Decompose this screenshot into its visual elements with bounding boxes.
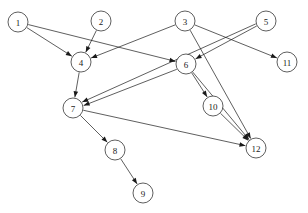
arrowhead-icon-7-to-12 — [239, 142, 245, 146]
graph-canvas: 123546117108129 — [0, 0, 308, 213]
arrowhead-icon-4-to-7 — [74, 91, 79, 97]
node-label-10: 10 — [209, 102, 219, 112]
graph-node-3[interactable]: 3 — [175, 11, 195, 31]
arrowhead-icon-6-to-10 — [202, 91, 207, 97]
node-label-1: 1 — [16, 18, 21, 28]
node-label-12: 12 — [252, 144, 261, 154]
node-label-5: 5 — [264, 17, 269, 27]
arrowhead-icon-5-to-6 — [196, 54, 202, 59]
graph-node-4[interactable]: 4 — [71, 52, 91, 72]
arrowhead-icon-3-to-11 — [271, 54, 277, 58]
node-label-7: 7 — [71, 104, 76, 114]
graph-node-6[interactable]: 6 — [176, 54, 196, 74]
arrowhead-icon-1-to-4 — [66, 51, 72, 56]
node-label-8: 8 — [113, 146, 118, 156]
arrowhead-icon-5-to-7 — [82, 98, 88, 103]
graph-node-10[interactable]: 10 — [203, 96, 223, 116]
node-label-2: 2 — [99, 17, 104, 27]
edge-5-to-6 — [196, 26, 257, 59]
graph-node-9[interactable]: 9 — [133, 183, 153, 203]
graph-node-2[interactable]: 2 — [91, 11, 111, 31]
node-layer: 123546117108129 — [8, 11, 297, 203]
edge-7-to-12 — [83, 110, 245, 145]
node-label-4: 4 — [79, 58, 84, 68]
graph-node-5[interactable]: 5 — [256, 11, 276, 31]
node-label-9: 9 — [141, 189, 146, 199]
node-label-6: 6 — [184, 60, 189, 70]
node-label-3: 3 — [183, 17, 188, 27]
arrowhead-icon-2-to-4 — [86, 46, 91, 52]
graph-node-7[interactable]: 7 — [63, 98, 83, 118]
graph-node-8[interactable]: 8 — [105, 140, 125, 160]
graph-node-1[interactable]: 1 — [8, 12, 28, 32]
edge-5-to-7 — [82, 24, 256, 102]
arrowhead-icon-3-to-4 — [91, 54, 97, 58]
graph-node-11[interactable]: 11 — [277, 52, 297, 72]
graph-diagram: 123546117108129 — [0, 0, 308, 213]
node-label-11: 11 — [283, 58, 292, 68]
arrowhead-icon-8-to-9 — [132, 178, 137, 184]
edge-1-to-4 — [27, 28, 72, 57]
edge-6-to-7 — [84, 69, 177, 105]
graph-node-12[interactable]: 12 — [246, 138, 266, 158]
